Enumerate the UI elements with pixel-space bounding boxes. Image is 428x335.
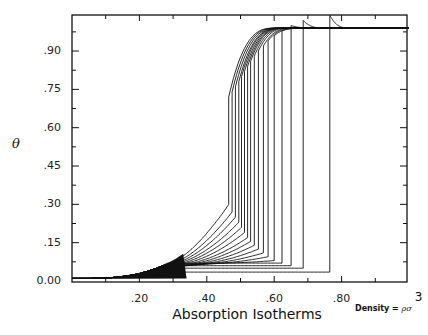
isotherm-line [72,15,409,278]
y-tick-label: .75 [21,82,61,95]
density-exponent: 3 [415,290,423,304]
plot-frame [72,15,407,282]
isotherm-line [72,28,409,278]
isotherm-line [72,28,409,278]
isotherm-line [72,28,409,278]
y-tick-label: .60 [21,121,61,134]
isotherm-line [72,28,409,278]
x-tick-label: .20 [119,292,159,305]
isotherm-line [72,28,409,278]
x-axis-title: Absorption Isotherms [122,306,372,322]
isotherm-line [72,28,409,278]
density-prefix: Density = [355,304,402,313]
y-axis-label: θ [12,136,20,151]
isotherm-line [72,28,409,278]
y-tick-label: .90 [21,44,61,57]
isotherm-line [72,28,409,278]
isotherm-line [72,28,409,278]
y-tick-label: .15 [21,236,61,249]
sigma-symbol: σ [406,304,411,313]
y-tick-label: 0.00 [21,274,61,287]
isotherm-line [72,28,409,278]
isotherm-chart [0,0,428,335]
y-tick-label: .30 [21,197,61,210]
y-tick-label: .45 [21,159,61,172]
x-tick-label: .40 [187,292,227,305]
isotherm-line [72,28,409,278]
isotherm-curves [72,15,409,279]
isotherm-line [72,20,409,278]
isotherm-line [72,28,409,278]
x-tick-label: .60 [254,292,294,305]
density-label: Density = ρσ3 [355,300,422,314]
isotherm-line [72,28,409,278]
isotherm-line [72,28,409,278]
axis-ticks [72,15,407,282]
